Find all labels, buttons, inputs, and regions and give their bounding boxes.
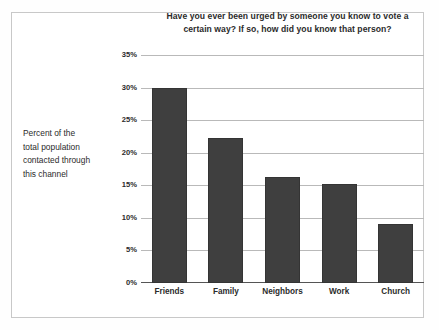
bar — [152, 88, 187, 283]
y-axis-tick-label: 0% — [111, 279, 137, 287]
bar — [378, 224, 413, 283]
x-axis-tick-label: Friends — [141, 286, 198, 297]
bar — [322, 184, 357, 283]
y-axis-tick-label: 10% — [111, 214, 137, 222]
chart-title-line-1: Have you ever been urged by someone you … — [145, 10, 430, 23]
y-axis-tick-label: 30% — [111, 84, 137, 92]
y-axis-tick-label: 15% — [111, 181, 137, 189]
x-axis-tick-label: Work — [311, 286, 368, 297]
chart-title-line-2: certain way? If so, how did you know tha… — [145, 23, 430, 36]
y-axis-tick-label: 5% — [111, 246, 137, 254]
y-axis-tick-label: 20% — [111, 149, 137, 157]
y-axis-tick-labels: 35%30%25%20%15%10%5%0% — [110, 55, 137, 283]
y-axis-tick-label: 25% — [111, 116, 137, 124]
y-axis-tick-label: 35% — [111, 51, 137, 59]
x-axis-tick-labels: FriendsFamilyNeighborsWorkChurch — [141, 286, 424, 302]
bar-series — [141, 55, 424, 283]
x-axis-tick-label: Family — [198, 286, 255, 297]
bar — [265, 177, 300, 283]
x-axis-tick-label: Church — [367, 286, 424, 297]
bar — [208, 138, 243, 283]
chart-title: Have you ever been urged by someone you … — [145, 10, 430, 36]
x-axis-tick-label: Neighbors — [254, 286, 311, 297]
chart-figure: Have you ever been urged by someone you … — [0, 0, 439, 330]
